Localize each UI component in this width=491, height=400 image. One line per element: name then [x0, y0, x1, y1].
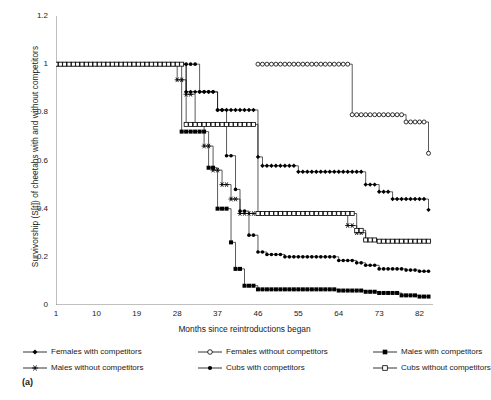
x-tick-label: 82	[405, 310, 435, 318]
x-tick-label: 1	[41, 310, 71, 318]
legend-item-0[interactable]: Females with competitors	[22, 347, 197, 357]
x-tick-label: 55	[283, 310, 313, 318]
x-tick-label: 64	[324, 310, 354, 318]
legend-label: Males with competitors	[401, 348, 482, 356]
legend-label: Females with competitors	[51, 348, 142, 356]
y-tick-label: 0.8	[14, 108, 48, 116]
legend-marker-icon	[22, 363, 48, 373]
legend-item-5[interactable]: Cubs without competitors	[372, 363, 491, 373]
survival-curves-svg	[56, 16, 433, 305]
legend-item-4[interactable]: Cubs with competitors	[197, 363, 372, 373]
y-tick-label: 0.4	[14, 205, 48, 213]
x-tick-label: 73	[364, 310, 394, 318]
chart-legend: Females with competitorsFemales without …	[22, 344, 442, 376]
x-tick-label: 10	[81, 310, 111, 318]
x-axis-title: Months since reintroductions began	[56, 324, 433, 334]
y-tick-label: 0.2	[14, 253, 48, 261]
x-tick-label: 37	[203, 310, 233, 318]
series-2	[56, 62, 431, 298]
y-tick-label: 0	[14, 301, 48, 309]
legend-marker-icon	[372, 347, 398, 357]
legend-label: Cubs without competitors	[401, 364, 491, 372]
y-tick-label: 1	[14, 60, 48, 68]
legend-marker-icon	[22, 347, 48, 357]
y-tick-label: 1.2	[14, 12, 48, 20]
x-tick-label: 28	[162, 310, 192, 318]
series-1	[256, 62, 431, 155]
legend-label: Cubs with competitors	[226, 364, 305, 372]
y-tick-label: 0.6	[14, 157, 48, 165]
legend-label: Males without competitors	[51, 364, 143, 372]
panel-label: (a)	[22, 377, 33, 387]
legend-marker-icon	[197, 363, 223, 373]
series-0	[56, 62, 431, 212]
series-5	[56, 62, 431, 243]
legend-marker-icon	[372, 363, 398, 373]
plot-area	[56, 16, 433, 305]
x-tick-label: 19	[122, 310, 152, 318]
x-tick-label: 46	[243, 310, 273, 318]
series-3	[56, 62, 431, 244]
legend-item-2[interactable]: Males with competitors	[372, 347, 491, 357]
legend-item-3[interactable]: Males without competitors	[22, 363, 197, 373]
legend-label: Females without competitors	[226, 348, 328, 356]
legend-marker-icon	[197, 347, 223, 357]
legend-item-1[interactable]: Females without competitors	[197, 347, 372, 357]
